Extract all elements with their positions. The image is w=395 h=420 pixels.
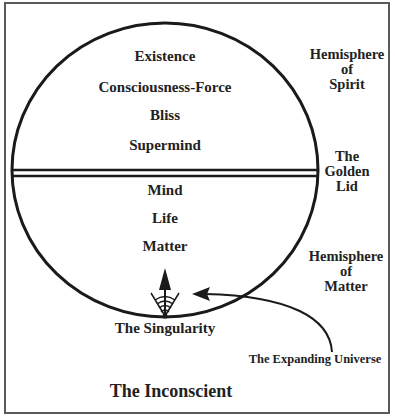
level-existence: Existence xyxy=(90,48,240,65)
level-life: Life xyxy=(90,210,240,227)
hemisphere-of-matter-label: Hemisphere of Matter xyxy=(291,249,395,294)
hemisphere-of-spirit-label: Hemisphere of Spirit xyxy=(292,47,395,92)
golden-lid-line xyxy=(12,170,318,176)
expanding-universe-label: The Expanding Universe xyxy=(238,352,392,367)
level-bliss: Bliss xyxy=(90,107,240,124)
singularity-label: The Singularity xyxy=(110,320,220,337)
inconscient-label: The Inconscient xyxy=(96,381,246,402)
singularity-icon xyxy=(151,268,179,319)
level-consciousness-force: Consciousness-Force xyxy=(90,79,240,96)
level-mind: Mind xyxy=(90,182,240,199)
level-matter: Matter xyxy=(90,238,240,255)
golden-lid-label: The Golden Lid xyxy=(292,149,395,194)
level-supermind: Supermind xyxy=(90,137,240,154)
